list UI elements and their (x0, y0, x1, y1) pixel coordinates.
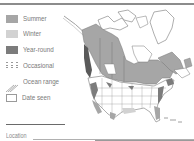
legend-label: Summer (23, 14, 47, 23)
date-seen-line[interactable] (6, 124, 65, 125)
dotted-lines-icon (6, 62, 18, 70)
bottom-rule (95, 140, 194, 141)
diagonal-lines-icon (6, 78, 18, 86)
legend-label: Year-round (23, 45, 54, 54)
year-round-swatch-icon (6, 46, 18, 54)
winter-swatch-icon (6, 30, 18, 38)
legend-label: Winter (23, 29, 41, 38)
checkbox-icon[interactable] (6, 94, 17, 102)
legend-item-date-seen[interactable]: Date seen (6, 93, 58, 102)
legend-label: Ocean range (23, 77, 59, 86)
legend-item-year-round: Year-round (6, 45, 62, 54)
legend-item-summer: Summer (6, 14, 53, 23)
legend-item-ocean-range: Ocean range (6, 77, 69, 86)
legend-label: Occasional (23, 61, 54, 70)
top-rule (0, 3, 194, 5)
location-label: Location (6, 132, 27, 139)
legend-label: Date seen (22, 93, 50, 102)
legend-item-occasional: Occasional (6, 61, 63, 70)
range-map (62, 8, 194, 126)
legend-item-winter: Winter (6, 29, 46, 38)
summer-swatch-icon (6, 15, 18, 23)
